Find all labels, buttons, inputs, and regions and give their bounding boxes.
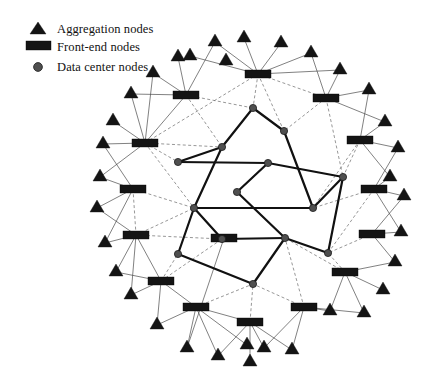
frontend-node[interactable]: [359, 230, 385, 238]
datacenter-node[interactable]: [218, 143, 225, 150]
datacenter-node[interactable]: [190, 204, 197, 211]
datacenter-node[interactable]: [233, 188, 240, 195]
datacenter-node[interactable]: [218, 235, 225, 242]
datacenter-node[interactable]: [280, 127, 287, 134]
frontend-node[interactable]: [183, 303, 209, 311]
network-topology-diagram: Aggregation nodes Front-end nodes Data c…: [0, 0, 441, 386]
datacenter-node[interactable]: [249, 104, 256, 111]
frontend-node[interactable]: [237, 318, 263, 326]
frontend-node[interactable]: [173, 91, 199, 99]
frontend-node[interactable]: [332, 268, 358, 276]
legend-label-frontend: Front-end nodes: [57, 40, 140, 54]
rectangle-icon: [26, 41, 51, 50]
figure-root: Aggregation nodes Front-end nodes Data c…: [0, 0, 441, 386]
frontend-node[interactable]: [123, 231, 149, 239]
frontend-node[interactable]: [245, 70, 271, 78]
datacenter-node[interactable]: [174, 158, 181, 165]
datacenter-node[interactable]: [324, 249, 331, 256]
datacenter-node[interactable]: [281, 234, 288, 241]
datacenter-node[interactable]: [174, 250, 181, 257]
legend-label-aggregation: Aggregation nodes: [57, 22, 154, 36]
datacenter-node[interactable]: [309, 204, 316, 211]
frontend-node[interactable]: [313, 94, 339, 102]
legend-label-datacenter: Data center nodes: [57, 60, 148, 74]
datacenter-node[interactable]: [339, 173, 346, 180]
datacenter-node[interactable]: [264, 159, 271, 166]
frontend-node[interactable]: [361, 185, 387, 193]
frontend-node[interactable]: [347, 136, 373, 144]
frontend-node[interactable]: [291, 303, 317, 311]
frontend-node[interactable]: [132, 139, 158, 147]
frontend-node[interactable]: [120, 185, 146, 193]
datacenter-node[interactable]: [249, 280, 256, 287]
frontend-node[interactable]: [148, 277, 174, 285]
circle-icon: [34, 63, 43, 72]
